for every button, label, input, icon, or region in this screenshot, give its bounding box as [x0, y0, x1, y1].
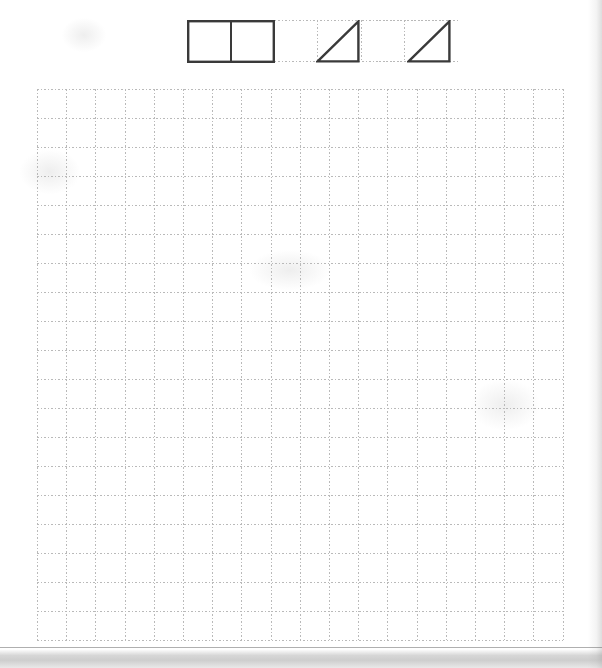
- scan-edge-bottom: [0, 642, 602, 668]
- scan-edge-right: [588, 0, 602, 668]
- answer-grid-svg: [37, 89, 565, 642]
- rectangle-svg: [187, 20, 275, 63]
- shape-triangle-2: [407, 20, 450, 62]
- right-triangle-svg: [407, 20, 451, 63]
- scan-edge-line: [0, 647, 602, 648]
- answer-grid[interactable]: [37, 89, 562, 640]
- right-triangle-svg: [316, 20, 360, 63]
- shape-triangle-1: [316, 20, 359, 62]
- shape-rectangle: [187, 20, 274, 62]
- worksheet-page: [0, 0, 602, 668]
- example-shapes-row: [0, 0, 602, 78]
